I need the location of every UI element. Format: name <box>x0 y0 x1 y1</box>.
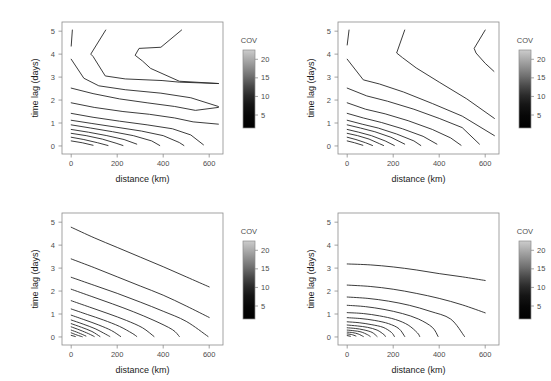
legend-tick-label: 5 <box>537 111 541 120</box>
legend-tick-label: 5 <box>537 302 541 311</box>
contour-line <box>347 133 383 145</box>
legend-title: COV <box>241 36 257 45</box>
y-tick-label: 0 <box>327 333 331 342</box>
y-tick-label: 4 <box>51 241 55 250</box>
x-tick-label: 0 <box>345 350 349 359</box>
contour-line <box>397 30 495 118</box>
contour-line <box>71 133 123 145</box>
x-tick-label: 200 <box>387 350 400 359</box>
legend-title: COV <box>241 227 257 236</box>
x-tick-label: 600 <box>203 159 216 168</box>
y-tick-label: 0 <box>51 333 55 342</box>
x-axis-title: distance (km) <box>115 365 169 375</box>
x-tick-label: 400 <box>433 159 446 168</box>
y-axis-title: time lag (days) <box>306 249 316 308</box>
contour-line <box>71 335 75 336</box>
contour-line <box>71 113 203 144</box>
contour-line <box>347 88 479 144</box>
contour-line <box>347 264 485 281</box>
legend-tick-label: 20 <box>537 55 545 64</box>
legend-tick-label: 10 <box>261 283 269 292</box>
x-tick-label: 0 <box>345 159 349 168</box>
y-tick-label: 4 <box>327 50 331 59</box>
contour-line <box>71 129 137 144</box>
legend-tick-label: 10 <box>261 92 269 101</box>
contour-line <box>71 320 110 337</box>
y-tick-label: 1 <box>327 310 331 319</box>
y-axis-title: time lag (days) <box>30 249 40 308</box>
x-axis-title: distance (km) <box>115 174 169 184</box>
contour-line <box>91 30 219 83</box>
contour-line <box>71 309 137 337</box>
x-tick-label: 200 <box>111 159 124 168</box>
contour-line <box>71 141 93 145</box>
y-tick-label: 1 <box>51 119 55 128</box>
contour-line <box>347 297 464 336</box>
x-tick-label: 600 <box>203 350 216 359</box>
contour-panel-top-left: 0200400600012345distance (km)time lag (d… <box>0 0 275 190</box>
legend-tick-label: 20 <box>537 246 545 255</box>
contour-panel-bottom-left: 0200400600012345distance (km)time lag (d… <box>0 191 275 381</box>
colorbar-gradient <box>519 241 531 319</box>
x-axis-title: distance (km) <box>391 365 445 375</box>
y-axis-title: time lag (days) <box>306 58 316 117</box>
x-tick-label: 600 <box>479 350 492 359</box>
y-tick-label: 2 <box>51 96 55 105</box>
y-tick-label: 3 <box>51 73 55 82</box>
contour-lines <box>347 30 494 145</box>
contour-line <box>347 113 437 144</box>
contour-line <box>347 285 485 313</box>
y-tick-label: 2 <box>327 287 331 296</box>
contour-line <box>71 227 209 287</box>
y-tick-label: 5 <box>327 27 331 36</box>
colorbar-gradient <box>243 50 255 128</box>
legend-title: COV <box>517 36 533 45</box>
y-tick-label: 3 <box>327 73 331 82</box>
y-tick-label: 4 <box>51 50 55 59</box>
y-tick-label: 1 <box>327 119 331 128</box>
legend-title: COV <box>517 227 533 236</box>
y-tick-label: 1 <box>51 310 55 319</box>
x-tick-label: 0 <box>69 350 73 359</box>
y-tick-label: 0 <box>51 142 55 151</box>
legend-tick-label: 20 <box>261 246 269 255</box>
contour-line <box>347 322 394 337</box>
contour-line <box>71 103 218 124</box>
contour-line <box>71 30 72 46</box>
contour-lines <box>71 227 209 337</box>
contour-lines <box>347 264 485 337</box>
y-tick-label: 5 <box>327 218 331 227</box>
contour-line <box>347 120 421 145</box>
y-tick-label: 2 <box>51 287 55 296</box>
contour-line <box>347 141 363 145</box>
contour-line <box>135 30 218 83</box>
x-tick-label: 600 <box>479 159 492 168</box>
contour-line <box>71 120 184 145</box>
legend-tick-label: 10 <box>537 92 545 101</box>
y-tick-label: 3 <box>51 264 55 273</box>
contour-panel-top-right: 0200400600012345distance (km)time lag (d… <box>276 0 551 190</box>
plot-frame <box>62 22 223 154</box>
x-tick-label: 200 <box>387 159 400 168</box>
legend-tick-label: 15 <box>261 264 269 273</box>
x-tick-label: 400 <box>157 350 170 359</box>
contour-line <box>474 30 494 71</box>
x-tick-label: 400 <box>157 159 170 168</box>
contour-line <box>347 336 350 337</box>
legend-tick-label: 10 <box>537 283 545 292</box>
legend-tick-label: 5 <box>261 302 265 311</box>
contour-lines <box>71 30 218 145</box>
y-axis-title: time lag (days) <box>30 58 40 117</box>
y-tick-label: 0 <box>327 142 331 151</box>
y-tick-label: 2 <box>327 96 331 105</box>
contour-panel-bottom-right: 0200400600012345distance (km)time lag (d… <box>276 191 551 381</box>
legend-tick-label: 20 <box>261 55 269 64</box>
legend-tick-label: 15 <box>537 264 545 273</box>
y-tick-label: 5 <box>51 218 55 227</box>
contour-line <box>347 313 419 337</box>
x-axis-title: distance (km) <box>391 174 445 184</box>
y-tick-label: 5 <box>51 27 55 36</box>
x-tick-label: 400 <box>433 350 446 359</box>
colorbar-gradient <box>243 241 255 319</box>
colorbar-gradient <box>519 50 531 128</box>
